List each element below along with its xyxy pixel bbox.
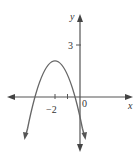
y-axis: [76, 14, 83, 152]
parabola-graph: y x 3 −2 0: [0, 0, 139, 156]
y-axis-down-arrow-icon: [77, 144, 83, 152]
parabola-curve: [23, 61, 87, 140]
x-axis-left-arrow-icon: [7, 94, 15, 100]
y-tick-label-3: 3: [68, 40, 73, 51]
curve-right-arrow-icon: [82, 132, 88, 140]
x-axis: [7, 94, 133, 100]
curve-left-arrow-icon: [23, 132, 29, 140]
origin-label: 0: [82, 98, 87, 109]
y-axis-label: y: [69, 11, 75, 22]
x-axis-label: x: [127, 100, 133, 111]
y-axis-up-arrow-icon: [77, 14, 83, 22]
x-tick-label-minus-2: −2: [46, 104, 57, 115]
